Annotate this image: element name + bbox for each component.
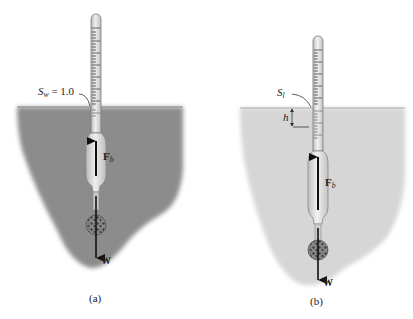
subscript-l: l [283, 91, 285, 100]
force-subscript: b [332, 181, 336, 190]
force-symbol: F [103, 150, 110, 162]
caption-b: (b) [310, 295, 323, 307]
buoyant-force-label-a: Fb [103, 150, 114, 164]
specific-gravity-label-a: Sw = 1.0 [38, 85, 74, 99]
force-subscript: b [110, 155, 114, 164]
value-text: = 1.0 [49, 85, 74, 97]
force-symbol: F [325, 176, 332, 188]
surface-leader-a [79, 94, 90, 106]
specific-gravity-label-b: Sl [277, 86, 285, 100]
weight-label-a: W [101, 255, 111, 266]
depth-label-h: h [283, 111, 289, 123]
caption-a: (a) [89, 292, 101, 304]
panel-b [240, 36, 405, 285]
figure-drawing [0, 0, 413, 319]
panel-a [17, 14, 183, 268]
weight-label-b: W [323, 277, 333, 288]
surface-leader-b [292, 94, 311, 107]
buoyant-force-label-b: Fb [325, 176, 336, 190]
hydrometer-figure: Sw = 1.0 Fb W (a) Sl h Fb W (b) [0, 0, 413, 319]
